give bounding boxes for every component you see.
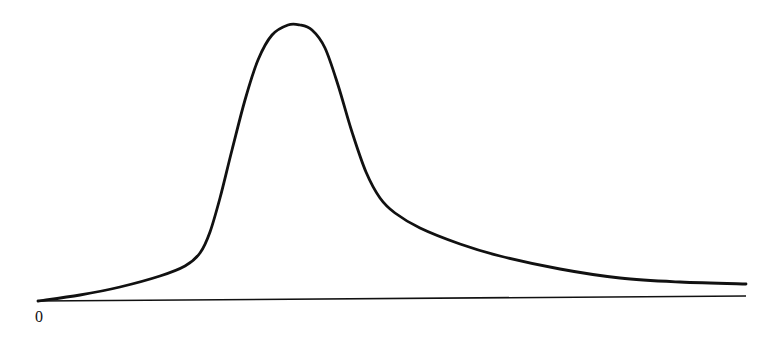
data-curve xyxy=(38,24,746,301)
chart: 0 xyxy=(0,0,772,349)
x-axis-origin-label: 0 xyxy=(35,308,43,326)
x-axis-line xyxy=(38,296,746,301)
chart-plot-area xyxy=(0,0,772,349)
